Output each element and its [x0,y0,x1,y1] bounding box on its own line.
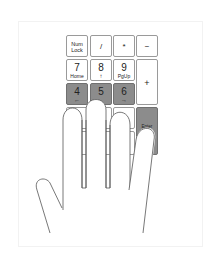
ring-finger [110,112,130,188]
hand-illustration [0,0,216,264]
middle-finger [86,100,106,189]
